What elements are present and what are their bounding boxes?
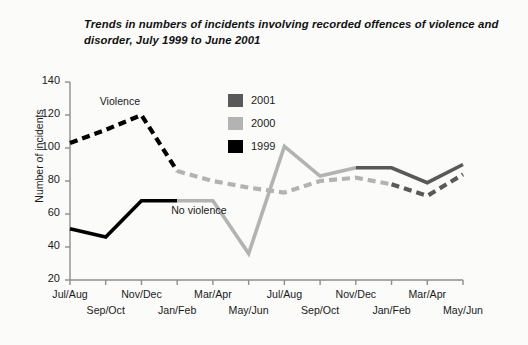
series-line-violence-1999 <box>70 115 177 171</box>
x-tick-label: Jan/Feb <box>148 304 206 316</box>
series-lines <box>70 115 463 254</box>
x-tick-label: Jan/Feb <box>363 304 421 316</box>
x-tick-label: Nov/Dec <box>327 288 385 300</box>
x-tick-label: May/Jun <box>434 304 492 316</box>
x-tick-label: May/Jun <box>220 304 278 316</box>
legend-label: 1999 <box>251 141 275 152</box>
legend-swatch-icon <box>228 94 243 107</box>
x-tick-label: Mar/Apr <box>398 288 456 300</box>
legend-item-2000[interactable]: 2000 <box>228 117 275 130</box>
series-line-no-violence-1999 <box>70 201 177 237</box>
y-tick-label: 20 <box>26 272 60 284</box>
y-tick-label: 100 <box>26 140 60 152</box>
y-tick-marks <box>65 82 70 280</box>
annotation-violence: Violence <box>100 95 140 107</box>
series-line-no-violence-2000 <box>177 146 356 253</box>
series-line-violence-2001 <box>392 174 463 195</box>
legend-swatch-icon <box>228 117 243 130</box>
legend-item-2001[interactable]: 2001 <box>228 94 275 107</box>
series-line-violence-2000 <box>177 171 391 192</box>
x-tick-label: Mar/Apr <box>184 288 242 300</box>
chart-figure: Trends in numbers of incidents involving… <box>0 0 528 345</box>
x-tick-marks <box>70 280 463 285</box>
y-tick-label: 120 <box>26 107 60 119</box>
legend-label: 2001 <box>251 95 275 106</box>
x-tick-label: Jul/Aug <box>255 288 313 300</box>
y-tick-label: 140 <box>26 74 60 86</box>
axis-lines <box>70 82 463 280</box>
legend-label: 2000 <box>251 118 275 129</box>
x-tick-label: Jul/Aug <box>41 288 99 300</box>
x-tick-label: Sep/Oct <box>291 304 349 316</box>
y-tick-label: 80 <box>26 173 60 185</box>
annotation-no-violence: No violence <box>171 204 226 216</box>
legend-item-1999[interactable]: 1999 <box>228 140 275 153</box>
y-tick-label: 40 <box>26 239 60 251</box>
legend-swatch-icon <box>228 140 243 153</box>
x-tick-label: Sep/Oct <box>77 304 135 316</box>
x-tick-label: Nov/Dec <box>112 288 170 300</box>
y-tick-label: 60 <box>26 206 60 218</box>
